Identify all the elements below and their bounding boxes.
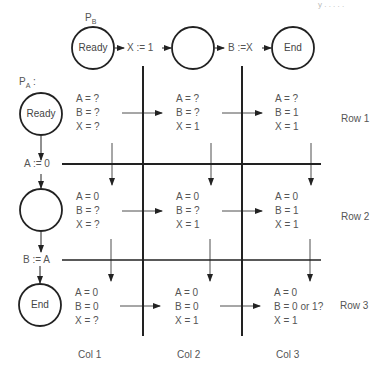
col-label-3: Col 3	[276, 349, 299, 361]
cell-r1-c1: A = ?B = ?X = ?	[76, 92, 100, 134]
cell-r1-c2: A = ?B = ?X = 1	[176, 92, 200, 134]
cell-r3-c1: A = 0B = 0X = ?	[75, 286, 99, 328]
transition-b-assign-x: B :=X	[228, 42, 253, 54]
cell-r2-c3: A = 0B = 1X = 1	[275, 190, 299, 232]
pa-ready-label: Ready	[20, 108, 62, 120]
process-b-label: PB	[85, 12, 96, 28]
cell-r1-c3: A = ?B = 1X = 1	[275, 92, 299, 134]
process-a-label: PA :	[19, 76, 36, 92]
pb-ready-label: Ready	[72, 42, 114, 54]
pa-middle-state	[20, 189, 62, 231]
cell-r3-c2: A = 0B = 0X = 1	[175, 286, 199, 328]
cell-r3-c3: A = 0B = 0 or 1?X = 1	[274, 286, 323, 328]
transition-x-assign-1: X := 1	[127, 42, 153, 54]
pa-end-label: End	[19, 299, 61, 311]
pb-end-label: End	[272, 42, 314, 54]
cell-r2-c2: A = 0B = ?X = 1	[176, 190, 200, 232]
transition-b-assign-a: B := A	[23, 254, 50, 266]
header-fragment: y . . . . .	[318, 0, 344, 9]
col-label-1: Col 1	[78, 349, 101, 361]
cell-r2-c1: A = 0B = ?X = ?	[76, 190, 100, 232]
transition-a-assign-0: A := 0	[24, 158, 50, 170]
row-label-3: Row 3	[340, 300, 368, 312]
col-label-2: Col 2	[177, 349, 200, 361]
row-label-1: Row 1	[341, 113, 369, 125]
row-label-2: Row 2	[341, 211, 369, 223]
pb-middle-state	[172, 27, 214, 69]
